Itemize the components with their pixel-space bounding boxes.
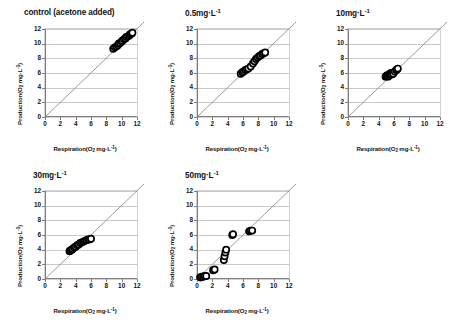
x-tick-label: 2 — [53, 121, 67, 127]
x-tick-label: 0 — [190, 121, 204, 127]
x-tick-mark — [212, 117, 213, 120]
y-axis-label-dose-50: Production(O2 mg·L-1) — [168, 225, 176, 287]
x-tick-label: 12 — [130, 283, 144, 289]
y-tick-label: 10 — [27, 202, 41, 208]
x-tick-mark — [379, 117, 380, 120]
x-tick-label: 4 — [372, 121, 386, 127]
x-tick-label: 4 — [221, 121, 235, 127]
y-tick-label: 12 — [179, 188, 193, 194]
x-tick-mark — [228, 279, 229, 282]
x-tick-mark — [45, 117, 46, 120]
y-tick-label: 2 — [27, 99, 41, 105]
x-tick-mark — [106, 279, 107, 282]
x-tick-mark — [122, 117, 123, 120]
x-tick-mark — [243, 279, 244, 282]
data-point — [129, 30, 135, 36]
x-tick-mark — [228, 117, 229, 120]
x-axis-label-dose-30: Respiration(O2 mg·L-1) — [30, 307, 140, 315]
x-tick-mark — [60, 117, 61, 120]
x-tick-mark — [60, 279, 61, 282]
x-tick-mark — [274, 117, 275, 120]
panel-dose-30: 30mg·L-1 Production(O2 mg·L-1) Respirati… — [0, 162, 155, 326]
x-tick-label: 8 — [251, 121, 265, 127]
x-tick-label: 2 — [205, 121, 219, 127]
x-tick-mark — [289, 279, 290, 282]
data-point — [203, 273, 209, 279]
x-tick-label: 2 — [53, 283, 67, 289]
x-tick-mark — [122, 279, 123, 282]
x-axis-label-dose-10: Respiration(O2 mg·L-1) — [333, 145, 443, 153]
x-tick-label: 4 — [69, 283, 83, 289]
x-tick-mark — [91, 279, 92, 282]
y-tick-label: 12 — [27, 26, 41, 32]
y-tick-label: 10 — [179, 202, 193, 208]
y-axis-label-control: Production(O2 mg·L-1) — [16, 63, 24, 125]
figure-scatter-panels: control (acetone added) Production(O2 mg… — [0, 0, 463, 326]
y-tick-label: 6 — [330, 70, 344, 76]
x-tick-mark — [197, 117, 198, 120]
y-axis-label-dose-10: Production(O2 mg·L-1) — [319, 63, 327, 125]
x-tick-mark — [76, 117, 77, 120]
x-tick-mark — [106, 117, 107, 120]
x-tick-label: 8 — [99, 283, 113, 289]
x-tick-label: 10 — [418, 121, 432, 127]
x-tick-mark — [289, 117, 290, 120]
x-tick-label: 10 — [267, 121, 281, 127]
data-point — [212, 266, 218, 272]
y-tick-label: 10 — [27, 40, 41, 46]
y-tick-label: 6 — [179, 70, 193, 76]
panel-title-dose-30: 30mg·L-1 — [33, 170, 67, 180]
x-tick-label: 0 — [341, 121, 355, 127]
y-tick-label: 2 — [330, 99, 344, 105]
y-axis-label-dose-0-5: Production(O2 mg·L-1) — [168, 63, 176, 125]
data-points-layer — [45, 191, 137, 279]
y-tick-label: 0 — [27, 276, 41, 282]
y-axis-label-dose-30: Production(O2 mg·L-1) — [16, 225, 24, 287]
panel-title-control: control (acetone added) — [24, 8, 115, 17]
x-tick-label: 12 — [282, 283, 296, 289]
data-point — [223, 247, 229, 253]
y-tick-label: 4 — [330, 84, 344, 90]
panel-title-dose-10: 10mg·L-1 — [336, 8, 370, 18]
x-tick-mark — [45, 279, 46, 282]
x-tick-label: 0 — [38, 121, 52, 127]
x-tick-label: 6 — [236, 283, 250, 289]
plot-area-dose-0-5: 024681012024681012 — [196, 28, 290, 118]
data-points-layer — [197, 29, 289, 117]
x-tick-label: 8 — [99, 121, 113, 127]
y-tick-label: 8 — [330, 55, 344, 61]
x-tick-label: 2 — [205, 283, 219, 289]
y-tick-label: 0 — [179, 114, 193, 120]
y-tick-label: 2 — [179, 261, 193, 267]
x-tick-label: 6 — [387, 121, 401, 127]
y-tick-label: 0 — [179, 276, 193, 282]
data-points-layer — [197, 191, 289, 279]
y-tick-label: 12 — [179, 26, 193, 32]
plot-area-dose-10: 024681012024681012 — [347, 28, 441, 118]
panel-control: control (acetone added) Production(O2 mg… — [0, 0, 155, 163]
x-tick-mark — [394, 117, 395, 120]
y-tick-label: 8 — [27, 55, 41, 61]
data-points-layer — [45, 29, 137, 117]
panel-dose-50: 50mg·L-1 Production(O2 mg·L-1) Respirati… — [152, 162, 312, 326]
y-tick-label: 8 — [179, 55, 193, 61]
x-tick-mark — [76, 279, 77, 282]
x-tick-label: 8 — [402, 121, 416, 127]
y-tick-label: 4 — [179, 246, 193, 252]
panel-dose-10: 10mg·L-1 Production(O2 mg·L-1) Respirati… — [303, 0, 463, 163]
x-tick-label: 4 — [69, 121, 83, 127]
x-tick-mark — [348, 117, 349, 120]
x-axis-label-dose-50: Respiration(O2 mg·L-1) — [182, 307, 292, 315]
data-point — [262, 49, 268, 55]
x-tick-mark — [243, 117, 244, 120]
y-tick-label: 2 — [179, 99, 193, 105]
panel-title-dose-0-5: 0.5mg·L-1 — [185, 8, 221, 18]
x-tick-label: 4 — [221, 283, 235, 289]
x-tick-label: 6 — [84, 283, 98, 289]
x-tick-label: 10 — [267, 283, 281, 289]
y-tick-label: 4 — [27, 246, 41, 252]
y-tick-label: 2 — [27, 261, 41, 267]
data-point — [88, 236, 94, 242]
y-tick-label: 4 — [179, 84, 193, 90]
data-point — [395, 66, 401, 72]
